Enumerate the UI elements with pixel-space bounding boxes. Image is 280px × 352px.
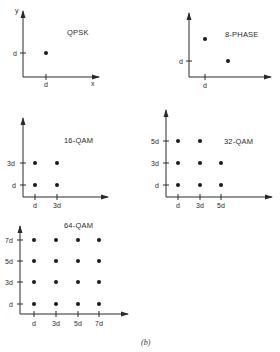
y-axis-label: y	[15, 7, 19, 15]
panel-qpsk: y x d d QPSK	[13, 7, 99, 88]
constellation-point	[44, 51, 48, 55]
x-tick-label: 3d	[53, 202, 61, 209]
x-tick-label: d	[176, 202, 180, 209]
x-tick-label: d	[32, 320, 36, 327]
y-tick-label: 3d	[7, 160, 15, 167]
x-axis-label: x	[91, 80, 95, 87]
constellation-point	[55, 161, 59, 165]
x-tick-label: 3d	[52, 320, 60, 327]
constellation-point	[55, 183, 59, 187]
panel-8-phase: d d 8-PHASE	[179, 13, 271, 89]
panel-16-qam: d 3d d 3d 16-QAM	[7, 118, 108, 209]
x-tick-label: d	[33, 202, 37, 209]
y-tick-label: d	[12, 182, 16, 189]
panel-title: 64-QAM	[64, 221, 93, 230]
y-tick-label: 3d	[151, 160, 159, 167]
constellation-point	[219, 161, 223, 165]
constellation-point	[198, 183, 202, 187]
constellation-point	[219, 183, 223, 187]
panel-64-qam: d 3d 5d 7d d 3d 5d 7d 64-QAM	[5, 221, 128, 327]
y-tick-label: 7d	[5, 237, 13, 244]
constellation-point	[203, 37, 207, 41]
panel-title: 32-QAM	[224, 137, 253, 146]
constellation-point	[176, 161, 180, 165]
y-tick-label: d	[155, 182, 159, 189]
y-tick-label: d	[9, 301, 13, 308]
constellation-point	[176, 139, 180, 143]
y-tick-label: 5d	[5, 258, 13, 265]
panel-title: QPSK	[67, 28, 89, 37]
x-tick-label: d	[203, 82, 207, 89]
constellation-diagram: y x d d QPSK d d 8-PHASE d 3d d 3d 16	[0, 0, 280, 352]
panel-title: 8-PHASE	[225, 30, 259, 39]
constellation-point	[33, 161, 37, 165]
x-tick-label: d	[44, 81, 48, 88]
constellation-point	[198, 161, 202, 165]
y-tick-label: d	[179, 58, 183, 65]
x-tick-label: 7d	[95, 320, 103, 327]
panel-title: 16-QAM	[64, 136, 93, 145]
constellation-points	[32, 238, 101, 306]
figure-caption: (b)	[141, 338, 151, 347]
y-tick-label: 5d	[151, 138, 159, 145]
constellation-point	[198, 139, 202, 143]
constellation-point	[33, 183, 37, 187]
x-tick-label: 5d	[74, 320, 82, 327]
y-tick-label: d	[13, 50, 17, 57]
constellation-point	[226, 59, 230, 63]
x-tick-label: 3d	[196, 202, 204, 209]
x-tick-label: 5d	[217, 202, 225, 209]
constellation-point	[176, 183, 180, 187]
y-tick-label: 3d	[5, 279, 13, 286]
panel-32-qam: d 3d 5d d 3d 5d 32-QAM	[151, 110, 272, 209]
